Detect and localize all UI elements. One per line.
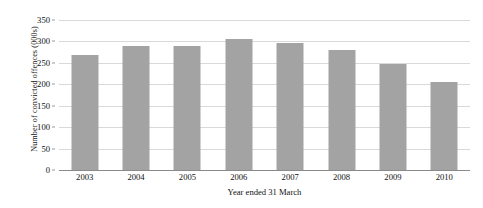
x-axis-tick-label: 2005 bbox=[179, 172, 196, 182]
bar-slot bbox=[213, 20, 264, 170]
y-axis-tick-mark bbox=[52, 20, 55, 21]
y-axis-tick-label: 250 bbox=[37, 58, 50, 68]
bar-slot bbox=[265, 20, 316, 170]
x-axis-title: Year ended 31 March bbox=[59, 187, 470, 197]
x-axis-tick-labels: 20032004200520062007200820092010 bbox=[59, 172, 470, 186]
y-axis-tick-label: 150 bbox=[37, 101, 50, 111]
x-axis-tick-label: 2006 bbox=[230, 172, 247, 182]
y-axis-tick-label: 0 bbox=[46, 165, 50, 175]
x-axis-tick-label: 2003 bbox=[76, 172, 93, 182]
plot-area bbox=[59, 20, 470, 170]
y-axis-tick-mark bbox=[52, 148, 55, 149]
y-axis-tick-mark bbox=[52, 84, 55, 85]
bar bbox=[225, 39, 252, 170]
bar bbox=[379, 64, 406, 170]
y-axis-tick-label: 350 bbox=[37, 15, 50, 25]
bar bbox=[431, 82, 458, 170]
x-axis-tick-label: 2007 bbox=[282, 172, 299, 182]
bar bbox=[277, 43, 304, 170]
bar bbox=[328, 50, 355, 170]
y-axis-tick-label: 50 bbox=[41, 144, 50, 154]
y-axis-tick-mark bbox=[52, 105, 55, 106]
y-axis-tick-labels: 050100150200250300350 bbox=[0, 20, 55, 170]
y-axis-tick-mark bbox=[52, 62, 55, 63]
bar-slot bbox=[367, 20, 418, 170]
y-axis-tick-mark bbox=[52, 41, 55, 42]
bars-layer bbox=[59, 20, 470, 170]
bar-slot bbox=[162, 20, 213, 170]
bar bbox=[174, 46, 201, 170]
y-axis-tick-label: 200 bbox=[37, 79, 50, 89]
x-axis-tick-label: 2008 bbox=[333, 172, 350, 182]
bar-slot bbox=[59, 20, 110, 170]
y-axis-tick-mark bbox=[52, 127, 55, 128]
x-axis-tick-label: 2009 bbox=[384, 172, 401, 182]
x-axis-tick-label: 2004 bbox=[127, 172, 144, 182]
bar bbox=[123, 46, 150, 170]
y-axis-tick-label: 300 bbox=[37, 36, 50, 46]
y-axis-tick-mark bbox=[52, 170, 55, 171]
x-axis-tick-label: 2010 bbox=[436, 172, 453, 182]
y-axis-tick-label: 100 bbox=[37, 122, 50, 132]
bar bbox=[71, 55, 98, 170]
bar-slot bbox=[419, 20, 470, 170]
bar-slot bbox=[110, 20, 161, 170]
bar-slot bbox=[316, 20, 367, 170]
bar-chart-figure: Number of convicted offences (000s) 0501… bbox=[0, 0, 483, 208]
